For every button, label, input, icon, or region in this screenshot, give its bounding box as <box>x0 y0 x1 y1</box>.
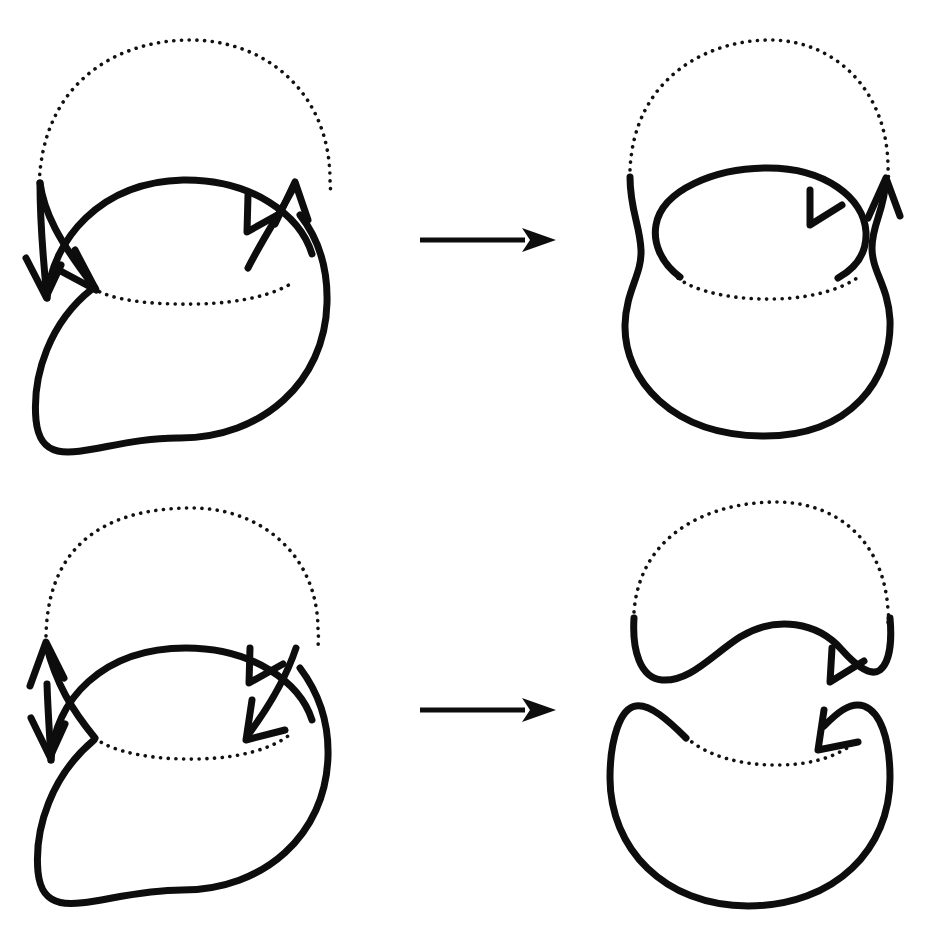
knot-diagram-figure <box>0 0 925 925</box>
tr-inner-dotted-arc <box>678 275 861 299</box>
lower-circle-dotted-inner-arc <box>93 283 292 304</box>
bottom-map-arrow <box>420 698 556 722</box>
panel-bottom-right <box>610 502 891 906</box>
tr-upper-dotted-arc <box>630 40 888 184</box>
top-map-arrow-head <box>522 228 556 252</box>
br-lower-component-curve <box>610 705 890 906</box>
upper-circle-dotted-arc <box>39 40 330 196</box>
figure-canvas <box>0 0 925 925</box>
panel-bottom-left <box>30 508 328 903</box>
bottom-map-arrow-head <box>522 698 556 722</box>
tr-inner-lens-curve <box>655 168 866 278</box>
panel-top-left <box>26 40 330 452</box>
panel-top-right <box>625 40 900 436</box>
br-upper-dotted-arc <box>634 502 888 624</box>
bl-upper-dotted-arc <box>46 508 318 648</box>
tr-arrowhead-up-left-inner <box>810 190 842 225</box>
tr-outer-boundary-curve <box>625 177 890 436</box>
bl-lower-circle-solid-outer-arc <box>37 668 328 903</box>
top-map-arrow <box>420 228 556 252</box>
